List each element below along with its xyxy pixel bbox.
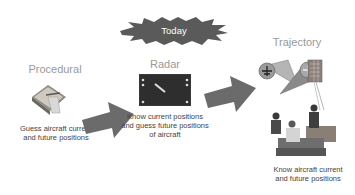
stage-title-procedural: Procedural	[10, 63, 100, 75]
caption-radar: Know current positions and guess future …	[115, 112, 215, 139]
procedural-book-icon	[30, 83, 70, 119]
stage-title-trajectory: Trajectory	[262, 36, 332, 48]
stage-title-radar: Radar	[135, 58, 195, 70]
arrow-right-icon	[202, 74, 258, 114]
today-label: Today	[118, 25, 230, 36]
today-banner: Today	[118, 16, 230, 46]
caption-trajectory: Know aircraft current and future positio…	[262, 165, 354, 183]
radar-screen-icon	[139, 74, 191, 106]
controllers-workstation-icon	[266, 104, 342, 160]
trajectory-aircraft-icon	[258, 50, 338, 110]
